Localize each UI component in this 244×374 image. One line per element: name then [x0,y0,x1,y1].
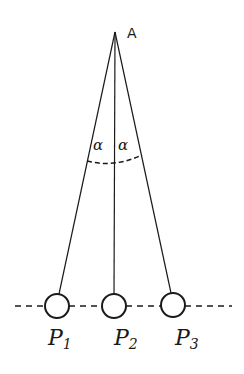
ball-label-p1-main: P [47,325,64,350]
ball-label-p2: P2 [113,325,138,352]
ball-label-p3: P3 [174,325,199,352]
pendulum-diagram: A α α P1 P2 P3 [0,0,244,374]
ball-label-p1-sub: 1 [63,336,72,352]
ball-p2 [102,294,126,318]
ball-label-p2-main: P [113,325,130,350]
ball-label-p3-main: P [174,325,191,350]
ball-label-p1: P1 [47,325,72,352]
ball-p1 [45,294,69,318]
ball-label-p2-sub: 2 [128,336,138,352]
apex-label: A [127,25,137,41]
ball-label-p3-sub: 3 [190,336,199,352]
angle-label-right: α [118,136,128,154]
string-right [115,32,171,293]
ball-p3 [161,293,185,317]
angle-label-left: α [93,136,103,154]
